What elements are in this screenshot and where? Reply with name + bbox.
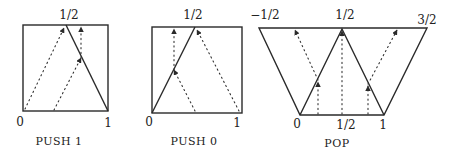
push1-bottom-label-1: 1: [104, 116, 112, 130]
pop-frame: [259, 28, 427, 115]
push1-dotted-trajectory-1: [25, 28, 64, 109]
panel-push-0: 1/2 0 1 PUSH 0: [145, 8, 242, 148]
push1-frame: [23, 25, 108, 111]
pop-bottom-label-half: 1/2: [336, 118, 355, 132]
push0-top-label: 1/2: [183, 8, 202, 22]
push1-caption: PUSH 1: [35, 135, 82, 148]
push1-top-label: 1/2: [59, 8, 78, 22]
push1-dotted-trajectory-2: [54, 58, 81, 110]
pop-bottom-label-0: 0: [293, 117, 301, 131]
push0-caption: PUSH 0: [170, 135, 217, 148]
pop-top-label-right: 3/2: [417, 13, 436, 27]
panel-push-1: 1/2 0 1 PUSH 1: [16, 8, 112, 148]
pop-caption: POP: [324, 137, 349, 150]
push0-frame: [152, 27, 242, 113]
push0-bottom-label-0: 0: [145, 115, 153, 129]
pop-top-label-left: −1/2: [250, 8, 279, 22]
pop-top-label-center: 1/2: [335, 8, 354, 22]
push1-bottom-label-0: 0: [16, 115, 24, 129]
push1-map-line: [66, 25, 108, 111]
pop-bottom-label-1: 1: [379, 118, 387, 132]
pop-dotted-diagonal-left: [295, 30, 318, 80]
push0-dotted-trajectory-1: [197, 30, 239, 111]
pop-dotted-diagonal-right: [368, 30, 397, 84]
panel-pop: −1/2 1/2 3/2 0 1/2 1 POP: [250, 8, 436, 150]
push0-bottom-label-1: 1: [233, 116, 241, 130]
stack-operations-diagram: 1/2 0 1 PUSH 1 1/2 0 1 PUSH 0 −1/2 1/2 3…: [0, 0, 451, 157]
push0-dotted-trajectory-2: [174, 70, 195, 111]
